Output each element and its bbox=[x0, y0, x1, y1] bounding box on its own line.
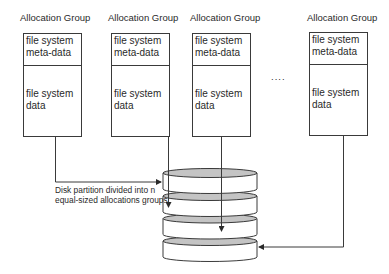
data-label-line2: data bbox=[26, 100, 46, 111]
data-label-line1: file system bbox=[114, 88, 161, 99]
data-label-line1: file system bbox=[26, 88, 73, 99]
data-label-line1: file system bbox=[195, 88, 242, 99]
meta-label-line2: meta-data bbox=[195, 47, 240, 58]
meta-label-line2: meta-data bbox=[114, 47, 159, 58]
disk-platter bbox=[163, 237, 257, 262]
group-1-arrow bbox=[56, 137, 162, 182]
meta-label-line1: file system bbox=[114, 35, 161, 46]
disk-top bbox=[163, 169, 257, 178]
allocation-group-4: file system meta-data file system data bbox=[310, 33, 368, 136]
disk-platter bbox=[163, 214, 257, 239]
group-4-title: Allocation Group bbox=[307, 12, 377, 23]
group-3-title: Allocation Group bbox=[190, 12, 260, 23]
group-1-title: Allocation Group bbox=[20, 12, 90, 23]
meta-label-line1: file system bbox=[195, 35, 242, 46]
meta-label-line1: file system bbox=[26, 35, 73, 46]
meta-label-line2: meta-data bbox=[312, 46, 357, 57]
data-label-line2: data bbox=[312, 99, 332, 110]
allocation-group-3: file system meta-data file system data bbox=[193, 34, 251, 137]
meta-label-line1: file system bbox=[312, 34, 359, 45]
caption-line2: equal-sized allocations groups bbox=[55, 195, 168, 205]
group-2-title: Allocation Group bbox=[108, 12, 178, 23]
data-label-line1: file system bbox=[312, 87, 359, 98]
more-groups-ellipsis: .... bbox=[271, 71, 286, 82]
allocation-group-1: file system meta-data file system data bbox=[24, 34, 82, 137]
caption-line1: Disk partition divided into n bbox=[55, 185, 155, 195]
group-4-arrow bbox=[259, 136, 344, 247]
disk-platter bbox=[163, 192, 257, 217]
allocation-group-diagram: Allocation Group Allocation Group Alloca… bbox=[0, 0, 389, 274]
data-label-line2: data bbox=[114, 100, 134, 111]
disk-partition-stack bbox=[163, 169, 257, 262]
meta-label-line2: meta-data bbox=[26, 47, 71, 58]
data-label-line2: data bbox=[195, 100, 215, 111]
disk-platter bbox=[163, 169, 257, 194]
allocation-group-2: file system meta-data file system data bbox=[112, 34, 170, 137]
